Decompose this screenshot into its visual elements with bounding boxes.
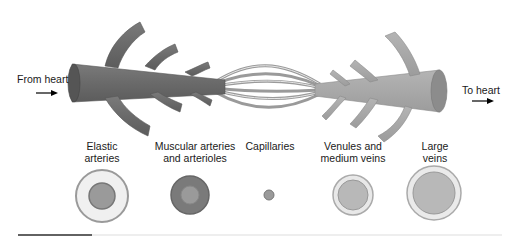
vein-opening [431,70,447,112]
from-heart-label: From heart [17,73,68,85]
to-heart-label: To heart [462,84,500,96]
venule-cross-section-icon [333,175,373,215]
capillary-network [215,66,320,108]
label-large-veins: Large veins [410,140,460,164]
from-heart-arrow-icon [36,90,58,96]
capillary-cross-section-icon [264,190,274,200]
label-elastic-arteries: Elastic arteries [72,140,132,164]
vessel-diagram [0,0,510,236]
vein-tree [315,32,440,142]
muscular-artery-cross-section-icon [171,176,209,214]
elastic-artery-cross-section-icon [76,170,128,222]
label-muscular-arteries: Muscular arteries and arterioles [150,140,240,164]
artery-opening [68,64,80,102]
large-vein-cross-section-icon [407,166,461,220]
label-capillaries: Capillaries [240,140,300,152]
artery-tree [72,22,225,136]
to-heart-arrow-icon [472,98,494,104]
label-venules: Venules and medium veins [313,140,393,164]
